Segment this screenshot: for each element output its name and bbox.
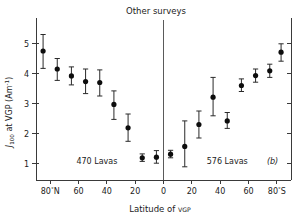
- data-point-group: [40, 35, 45, 69]
- data-point-group: [168, 150, 173, 158]
- data-point-group: [182, 121, 187, 167]
- x-axis-ticks: 80°N604020020406080°S: [41, 180, 286, 196]
- data-point-marker: [210, 95, 215, 100]
- chart-frame: [36, 18, 291, 180]
- x-axis-title: Latitude of VGP: [129, 204, 191, 214]
- x-axis-title-vgp: VGP: [178, 206, 191, 213]
- y-axis-title-rest: at VGP (Am: [5, 85, 14, 134]
- data-point-marker: [182, 144, 187, 149]
- panel-label: (b): [267, 157, 278, 166]
- y-tick-label: 5: [24, 40, 29, 49]
- data-point-marker: [97, 80, 102, 85]
- x-tick-label: 80°S: [268, 186, 286, 196]
- y-tick-label: 1: [24, 160, 29, 169]
- y-axis-ticks: 12345: [24, 40, 291, 169]
- data-point-marker: [83, 79, 88, 84]
- data-point-group: [125, 114, 130, 141]
- data-point-marker: [253, 73, 258, 78]
- y-axis-title-end: ): [5, 77, 14, 80]
- data-point-marker: [111, 102, 116, 107]
- data-series-layer: [40, 35, 283, 167]
- data-point-group: [83, 69, 88, 94]
- annotation-layer: 470 Lavas576 Lavas(b): [76, 157, 278, 166]
- data-point-marker: [69, 73, 74, 78]
- data-point-marker: [278, 50, 283, 55]
- x-tick-label: 0: [161, 187, 166, 196]
- chart-canvas: Other surveys J100 at VGP (Am-1) Latitud…: [0, 0, 306, 219]
- x-tick-label: 40: [215, 187, 225, 196]
- data-point-group: [111, 91, 116, 120]
- figure-container: Other surveys J100 at VGP (Am-1) Latitud…: [0, 0, 306, 219]
- data-point-marker: [140, 155, 145, 160]
- data-point-marker: [239, 83, 244, 88]
- x-tick-label: 80°N: [41, 186, 60, 196]
- data-point-group: [278, 44, 283, 61]
- data-point-marker: [196, 122, 201, 127]
- data-point-marker: [267, 68, 272, 73]
- data-point-group: [140, 154, 145, 162]
- x-tick-label: 40: [102, 187, 112, 196]
- y-axis-title: J100 at VGP (Am-1): [4, 77, 15, 149]
- data-point-group: [196, 111, 201, 138]
- data-point-group: [253, 69, 258, 82]
- data-point-marker: [40, 48, 45, 53]
- x-tick-label: 60: [243, 187, 253, 196]
- data-series: [168, 44, 284, 167]
- data-point-group: [225, 113, 230, 129]
- data-point-marker: [225, 118, 230, 123]
- series-annotation-label: 576 Lavas: [207, 157, 248, 166]
- y-axis-title-text: J100 at VGP (Am-1): [4, 77, 15, 149]
- data-point-group: [97, 70, 102, 96]
- data-point-marker: [154, 155, 159, 160]
- data-point-group: [154, 151, 159, 164]
- data-series: [40, 35, 159, 164]
- data-point-group: [210, 77, 215, 115]
- data-point-marker: [55, 66, 60, 71]
- data-point-group: [239, 79, 244, 92]
- x-axis-title-main: Latitude of: [129, 204, 178, 214]
- series-annotation-label: 470 Lavas: [76, 157, 117, 166]
- x-axis-title-text: Latitude of VGP: [129, 204, 191, 214]
- data-point-group: [69, 67, 74, 85]
- data-point-marker: [125, 125, 130, 130]
- y-tick-label: 4: [24, 70, 29, 79]
- data-point-group: [267, 64, 272, 77]
- x-tick-label: 20: [187, 187, 197, 196]
- x-tick-label: 20: [130, 187, 140, 196]
- data-point-group: [55, 59, 60, 81]
- y-tick-label: 3: [24, 100, 29, 109]
- y-tick-label: 2: [24, 130, 29, 139]
- chart-title: Other surveys: [126, 6, 186, 16]
- data-point-marker: [168, 152, 173, 157]
- x-tick-label: 60: [73, 187, 83, 196]
- y-axis-title-subscript: 100: [9, 134, 15, 145]
